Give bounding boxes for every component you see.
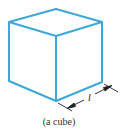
cube-edge-top_back-top_left [9, 9, 56, 22]
cube-edge-bottom_front-bottom_right [56, 82, 102, 101]
dimension-label: l [88, 92, 91, 103]
cube-diagram: l [0, 0, 123, 133]
figure-caption: (a cube) [0, 116, 118, 127]
cube-edge-top_right-top_front [56, 22, 102, 36]
cube-edges [9, 9, 102, 101]
cube-edge-top_left-top_front [9, 22, 56, 36]
cube-edge-bottom_left-bottom_front [9, 81, 56, 101]
arrowhead-left-icon [67, 103, 76, 109]
cube-edge-top_back-top_right [56, 9, 102, 22]
